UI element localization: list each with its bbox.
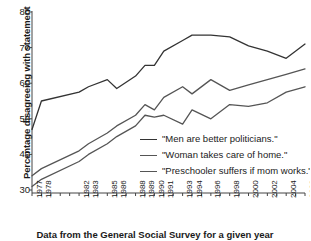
x-axis-tick-label: 1996: [214, 180, 222, 198]
x-axis-tick-label: 1982: [83, 180, 91, 198]
legend-label: "Woman takes care of home.": [162, 150, 287, 160]
line-chart: Percentage disagreeing with statement 30…: [0, 0, 310, 241]
legend-item[interactable]: "Woman takes care of home.": [140, 149, 287, 161]
chart-caption: Data from the General Social Survey for …: [0, 229, 310, 240]
legend-line-swatch: [140, 155, 157, 156]
x-axis-tick-label: 2000: [252, 180, 260, 198]
x-axis-tick-label: 1986: [120, 180, 128, 198]
x-axis-tick-label: 2004: [290, 180, 298, 198]
x-axis-tick-labels: 1977197819821983198519861988198919901991…: [0, 0, 310, 241]
legend-item[interactable]: "Men are better politicians.": [140, 133, 278, 145]
x-axis-tick-label: 1985: [111, 180, 119, 198]
x-axis-tick-label: 1998: [233, 180, 241, 198]
x-axis-tick-label: 2002: [271, 180, 279, 198]
x-axis-tick-label: 1983: [92, 180, 100, 198]
x-axis-tick-label: 1993: [186, 180, 194, 198]
x-axis-tick-label: 1990: [158, 180, 166, 198]
x-axis-tick-label: 1989: [148, 180, 156, 198]
x-axis-tick-label: 1988: [139, 180, 147, 198]
legend-label: "Preschooler suffers if mom works.": [162, 166, 310, 176]
x-axis-tick-label: 1991: [167, 180, 175, 198]
legend-line-swatch: [140, 139, 157, 140]
x-axis-tick-label: 1977: [36, 180, 44, 198]
legend-line-swatch: [140, 171, 157, 172]
x-axis-tick-label: 2006: [309, 180, 311, 198]
legend-label: "Men are better politicians.": [162, 134, 278, 144]
legend-item[interactable]: "Preschooler suffers if mom works.": [140, 165, 310, 177]
x-axis-tick-label: 1978: [45, 180, 53, 198]
x-axis-tick-label: 1994: [196, 180, 204, 198]
